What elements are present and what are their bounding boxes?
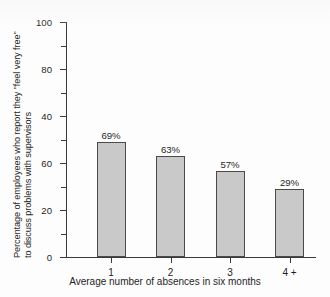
y-tick-label: 20 xyxy=(41,205,52,216)
bar-chart-figure: Percentage of employees who report they … xyxy=(0,0,330,297)
y-axis-title-line-1: Percentage of employees who report they … xyxy=(12,31,22,258)
x-tick xyxy=(230,257,231,263)
x-axis-line xyxy=(66,257,316,258)
y-axis-title: Percentage of employees who report they … xyxy=(0,0,32,262)
bar: 69% xyxy=(97,142,126,257)
y-tick-major: 0 xyxy=(60,257,66,258)
bar-value-label: 57% xyxy=(220,159,239,170)
y-tick-label: 100 xyxy=(36,17,52,28)
y-tick-major: 100 xyxy=(60,22,66,23)
y-tick-major: 80 xyxy=(60,69,66,70)
bar: 29% xyxy=(275,189,304,257)
bar: 63% xyxy=(156,156,185,257)
y-tick-label: 60 xyxy=(41,158,52,169)
y-tick-label: 40 xyxy=(41,111,52,122)
y-tick-major: 60 xyxy=(60,163,66,164)
bar-value-label: 63% xyxy=(161,144,180,155)
y-tick-minor xyxy=(61,46,66,47)
plot-area: 100804060200 1234 + 69%63%57%29% xyxy=(66,22,311,257)
y-tick-label: 80 xyxy=(41,64,52,75)
y-tick-minor xyxy=(61,234,66,235)
x-tick xyxy=(290,257,291,263)
y-axis-title-line-2: to discuss problems with supervisors xyxy=(23,112,33,258)
y-tick-major: 40 xyxy=(60,116,66,117)
bar-value-label: 29% xyxy=(280,177,299,188)
y-tick-minor xyxy=(61,140,66,141)
bar-value-label: 69% xyxy=(101,130,120,141)
y-tick-label: 0 xyxy=(47,252,52,263)
y-tick-major: 20 xyxy=(60,210,66,211)
x-tick xyxy=(171,257,172,263)
y-tick-minor xyxy=(61,93,66,94)
y-axis-line xyxy=(66,22,67,258)
bar: 57% xyxy=(216,171,245,257)
x-axis-title: Average number of absences in six months xyxy=(0,276,330,287)
x-tick xyxy=(111,257,112,263)
y-tick-minor xyxy=(61,187,66,188)
